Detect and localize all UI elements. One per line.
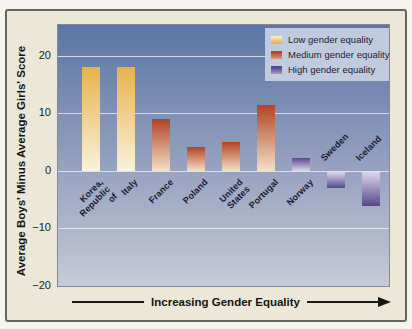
bar-france	[152, 119, 171, 171]
category-label-iceland: Iceland	[354, 133, 384, 163]
bar-norway	[292, 158, 311, 171]
y-tick-label: 10	[39, 107, 51, 119]
category-label-poland: Poland	[181, 177, 210, 206]
y-tick-label: −20	[32, 279, 51, 291]
bar-poland	[187, 147, 206, 171]
y-tick-label: 0	[45, 164, 51, 176]
arrow-line-left	[72, 301, 144, 303]
category-label-france: France	[147, 177, 175, 205]
gridline-10	[58, 113, 389, 114]
legend-swatch-high-icon	[271, 66, 282, 74]
category-label-norway: Norway	[285, 177, 316, 208]
category-label-united-states: United States	[218, 177, 252, 211]
legend-label: Low gender equality	[288, 34, 373, 45]
legend-swatch-medium-icon	[271, 51, 282, 59]
legend-item-medium: Medium gender equality	[271, 47, 389, 62]
bar-united-states	[222, 142, 241, 171]
y-axis-title: Average Boys' Minus Average Girls' Score	[15, 46, 27, 276]
bar-iceland	[362, 172, 381, 207]
legend-item-low: Low gender equality	[271, 32, 389, 47]
y-tick-label: −10	[32, 222, 51, 234]
legend-swatch-low-icon	[271, 36, 282, 44]
category-label-sweden: Sweden	[319, 131, 351, 163]
y-tick-label: 20	[39, 49, 51, 61]
bar-korea-republic-of	[82, 67, 101, 171]
arrow-line-right	[307, 301, 379, 303]
category-label-portugal: Portugal	[247, 177, 281, 211]
legend: Low gender equalityMedium gender equalit…	[265, 28, 389, 81]
x-axis-title: Increasing Gender Equality	[151, 296, 300, 308]
plot-area: Low gender equalityMedium gender equalit…	[57, 24, 390, 287]
figure-frame: Average Boys' Minus Average Girls' Score…	[5, 9, 407, 322]
legend-item-high: High gender equality	[271, 62, 389, 77]
bar-italy	[117, 67, 136, 171]
bar-sweden	[327, 172, 346, 189]
legend-label: High gender equality	[288, 64, 375, 75]
right-arrowhead-icon	[378, 297, 391, 307]
bar-portugal	[257, 105, 276, 171]
x-axis-arrow: Increasing Gender Equality	[72, 294, 391, 310]
legend-label: Medium gender equality	[288, 49, 389, 60]
category-label-korea-republic-of: Korea, Republic of	[70, 177, 120, 227]
category-label-italy: Italy	[120, 177, 140, 197]
gridline--10	[58, 228, 389, 229]
